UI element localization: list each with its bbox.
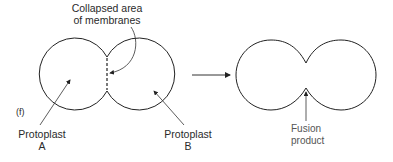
fusion-product-label-line1: Fusion: [291, 123, 324, 135]
collapsed-area-label: Collapsed area of membranes: [68, 2, 146, 26]
collapsed-area-label-line2: of membranes: [68, 14, 146, 26]
panel-label: (f): [16, 106, 25, 118]
fusion-product-label-line2: product: [291, 135, 324, 147]
protoplast-a-label-line1: Protoplast: [14, 128, 70, 140]
protoplast-b-outline: [107, 38, 175, 110]
collapsed-area-label-line1: Collapsed area: [68, 2, 146, 14]
protoplast-b-pointer-arrow: [154, 91, 184, 125]
protoplast-a-label-line2: A: [14, 140, 70, 152]
fusion-product-label: Fusion product: [291, 123, 324, 147]
protoplast-b-label-line1: Protoplast: [160, 128, 216, 140]
protoplast-a-pointer-arrow: [40, 80, 70, 125]
protoplast-b-label-line2: B: [160, 140, 216, 152]
protoplast-a-outline: [39, 38, 107, 110]
protoplast-a-label: Protoplast A: [14, 128, 70, 152]
protoplast-b-label: Protoplast B: [160, 128, 216, 152]
collapsed-area-pointer-arrow: [110, 27, 136, 73]
